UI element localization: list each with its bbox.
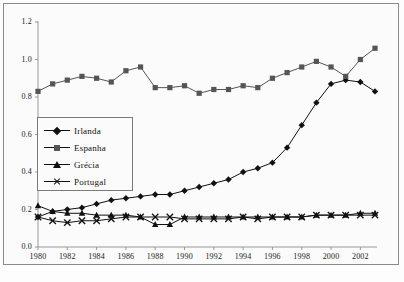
data-point [50, 81, 55, 86]
data-point [328, 64, 333, 69]
legend-item-espanha: Espanha [38, 139, 132, 156]
x-axis-tick-label: 1988 [140, 252, 170, 261]
data-point [372, 88, 378, 94]
data-point [299, 122, 305, 128]
data-point [138, 64, 143, 69]
x-axis-tick-label: 1994 [228, 252, 258, 261]
legend-item-portugal: Portugal [38, 173, 132, 190]
y-axis-tick-label: 0.4 [6, 167, 32, 176]
data-point [255, 85, 260, 90]
chart-figure: 0.00.20.40.60.81.01.2 198019821984198619… [0, 0, 404, 282]
data-point [343, 74, 348, 79]
data-point [314, 59, 319, 64]
y-axis-tick-label: 0.8 [6, 92, 32, 101]
x-axis-tick-label: 1990 [170, 252, 200, 261]
x-axis-tick-label: 1992 [199, 252, 229, 261]
data-point [284, 70, 289, 75]
data-point [167, 191, 173, 197]
x-axis-tick-label: 1982 [52, 252, 82, 261]
data-point [108, 197, 114, 203]
legend-marker-triangle-icon [43, 159, 71, 171]
data-point [65, 78, 70, 83]
legend-marker-diamond-icon [43, 125, 71, 137]
data-point [357, 79, 363, 85]
data-point [197, 91, 202, 96]
data-point [196, 184, 202, 190]
y-axis-tick-label: 0.2 [6, 205, 32, 214]
data-point [94, 76, 99, 81]
legend-label: Grécia [71, 160, 99, 170]
data-point [226, 87, 231, 92]
legend-label: Irlanda [71, 126, 101, 136]
data-point [137, 193, 143, 199]
data-point [181, 188, 187, 194]
y-axis-tick-label: 0.0 [6, 242, 32, 251]
data-point [152, 191, 158, 197]
data-point [299, 64, 304, 69]
data-point [123, 68, 128, 73]
data-point [79, 74, 84, 79]
x-axis-tick-label: 2002 [345, 252, 375, 261]
data-point [123, 195, 129, 201]
x-axis-tick-label: 1984 [82, 252, 112, 261]
y-axis-tick-label: 1.0 [6, 55, 32, 64]
series-espanha [35, 46, 377, 96]
legend-marker-square-icon [43, 142, 71, 154]
x-axis-tick-label: 1996 [257, 252, 287, 261]
legend-item-irlanda: Irlanda [38, 122, 132, 139]
data-point [255, 165, 261, 171]
data-point [109, 79, 114, 84]
data-point [270, 76, 275, 81]
x-axis-tick-label: 1980 [23, 252, 53, 261]
data-point [182, 83, 187, 88]
data-point [372, 46, 377, 51]
data-point [358, 57, 363, 62]
data-point [225, 176, 231, 182]
legend-item-grecia: Grécia [38, 156, 132, 173]
data-point [241, 83, 246, 88]
chart-legend: Irlanda Espanha Grécia Portugal [37, 117, 133, 191]
data-point [211, 87, 216, 92]
legend-label: Espanha [71, 143, 106, 153]
data-point [35, 89, 40, 94]
legend-marker-x-icon [43, 176, 71, 188]
data-point [167, 85, 172, 90]
x-axis-tick-label: 1986 [111, 252, 141, 261]
data-point [35, 202, 41, 208]
x-axis-tick-label: 2000 [316, 252, 346, 261]
x-axis-tick-label: 1998 [287, 252, 317, 261]
legend-label: Portugal [71, 177, 106, 187]
data-point [153, 85, 158, 90]
y-axis-tick-label: 0.6 [6, 130, 32, 139]
data-point [240, 169, 246, 175]
data-point [211, 180, 217, 186]
y-axis-tick-label: 1.2 [6, 17, 32, 26]
data-point [93, 201, 99, 207]
